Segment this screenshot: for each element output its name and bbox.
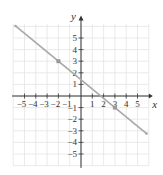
x-tick-label: −2 (51, 99, 61, 109)
y-tick-label: −2 (67, 114, 77, 124)
y-axis-arrow-icon (79, 15, 84, 20)
y-tick-label: 5 (73, 33, 78, 43)
y-axis-label: y (70, 10, 76, 22)
y-tick-label: −4 (67, 137, 77, 147)
y-tick-label: −3 (67, 126, 77, 136)
x-tick-label: −4 (28, 99, 38, 109)
y-tick-label: 1 (73, 79, 78, 89)
y-tick-label: −5 (67, 149, 77, 159)
x-tick-label: 1 (90, 99, 95, 109)
x-tick-label: −5 (17, 99, 27, 109)
x-axis-label: x (151, 98, 157, 110)
y-tick-label: −1 (67, 103, 77, 113)
x-tick-label: 4 (124, 99, 129, 109)
x-tick-label: −3 (39, 99, 49, 109)
data-point (56, 59, 60, 63)
line-endpoint (145, 132, 148, 135)
coordinate-plane-chart: −5−4−3−2−112345−5−4−3−2−112345 x y (0, 0, 163, 175)
data-point (113, 106, 117, 110)
line-endpoint (14, 25, 17, 28)
x-tick-label: 5 (135, 99, 140, 109)
y-tick-label: 3 (73, 56, 78, 66)
y-tick-label: 4 (73, 45, 78, 55)
